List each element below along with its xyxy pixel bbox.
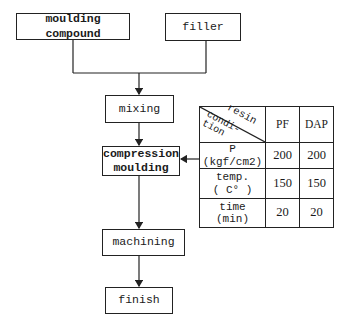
- row-label-time: time(min): [200, 199, 266, 228]
- table-row: P(kgf/cm2) 200 200: [200, 143, 334, 169]
- moulding-compound-box: moulding compound: [16, 13, 130, 40]
- table-row: temp.( C° ) 150 150: [200, 169, 334, 199]
- finish-label: finish: [118, 293, 159, 307]
- cell-pressure-pf: 200: [266, 143, 300, 169]
- filler-box: filler: [165, 13, 241, 41]
- moulding-label: moulding: [113, 161, 168, 175]
- compression-moulding-box: compression moulding: [102, 146, 180, 176]
- filler-label: filler: [182, 20, 223, 34]
- machining-box: machining: [102, 229, 185, 256]
- row-label-pressure: P(kgf/cm2): [200, 143, 266, 169]
- mixing-box: mixing: [105, 95, 174, 123]
- corner-cell: resin condi-tion: [200, 107, 266, 143]
- compression-label: compression: [103, 147, 179, 161]
- cell-temp-dap: 150: [300, 169, 334, 199]
- cell-time-dap: 20: [300, 199, 334, 228]
- cell-temp-pf: 150: [266, 169, 300, 199]
- col-header-dap: DAP: [300, 107, 334, 143]
- cell-pressure-dap: 200: [300, 143, 334, 169]
- mixing-label: mixing: [119, 102, 160, 116]
- col-header-pf: PF: [266, 107, 300, 143]
- moulding-compound-label: moulding compound: [17, 12, 129, 41]
- machining-label: machining: [112, 235, 174, 249]
- row-label-temp: temp.( C° ): [200, 169, 266, 199]
- table-row: time(min) 20 20: [200, 199, 334, 228]
- cell-time-pf: 20: [266, 199, 300, 228]
- conditions-table: resin condi-tion PF DAP P(kgf/cm2) 200 2…: [199, 106, 334, 228]
- finish-box: finish: [105, 287, 173, 314]
- table-header-row: resin condi-tion PF DAP: [200, 107, 334, 143]
